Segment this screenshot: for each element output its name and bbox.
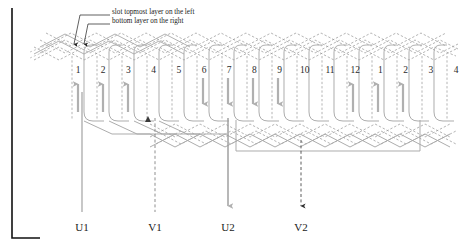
terminal-label-U1: U1 [68,222,96,233]
page-frame [12,8,40,238]
slot-current-arrows [78,78,403,112]
winding-diagram: slot topmost layer on the left bottom la… [0,0,476,244]
terminal-label-V2: V2 [287,222,315,233]
slot-number-10: 10 [297,66,313,76]
callout-label-topmost-layer: slot topmost layer on the left [112,9,194,16]
slot-number-1: 1 [70,66,86,76]
terminal-label-U2: U2 [214,222,242,233]
callout-leader-bottom-layer [84,24,110,44]
slot-number-15: 3 [423,66,439,76]
slot-4-tick-marker [145,116,151,122]
slot-number-13: 1 [372,66,388,76]
slot-number-9: 9 [272,66,288,76]
callout-label-bottom-layer: bottom layer on the right [112,18,183,25]
terminal-label-V1: V1 [141,222,169,233]
slot-conductors [72,45,454,121]
slot-number-16: 4 [448,66,464,76]
slot-number-11: 11 [322,66,338,76]
slot-number-5: 5 [171,66,187,76]
slot-number-3: 3 [120,66,136,76]
winding-diagram-svg [0,0,476,244]
slot-number-2: 2 [95,66,111,76]
terminal-leads [82,92,301,212]
bottom-overhang-solid-strands [84,121,450,147]
slot-number-14: 2 [398,66,414,76]
slot-number-7: 7 [221,66,237,76]
slot-number-12: 12 [347,66,363,76]
slot-number-4: 4 [146,66,162,76]
slot-number-8: 8 [246,66,262,76]
slot-number-6: 6 [196,66,212,76]
